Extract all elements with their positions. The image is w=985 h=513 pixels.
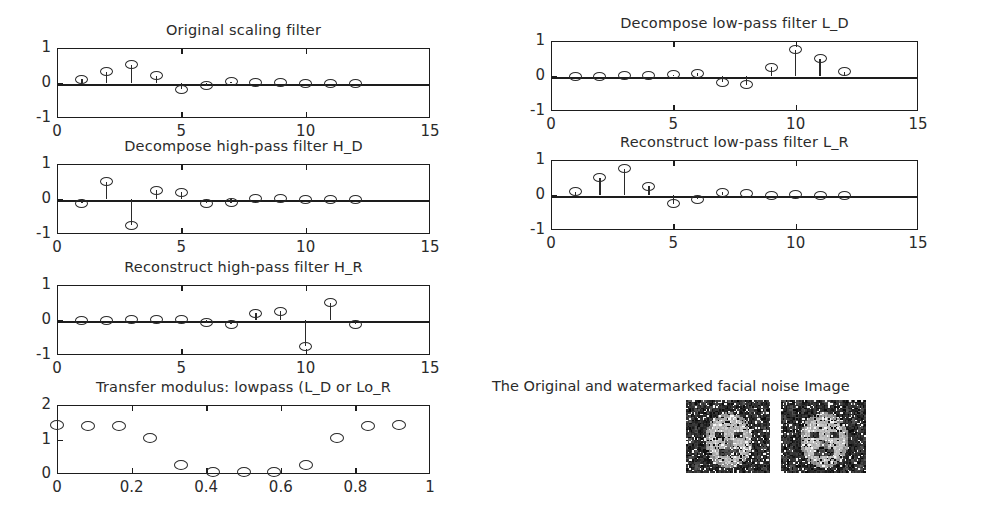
facial-image-caption: The Original and watermarked facial nois… [492,378,850,394]
original-scaling-filter-axes [57,48,430,118]
reconstruct-lowpass-filter-stem-marker [814,191,827,200]
decompose-highpass-filter-zero-line [58,200,429,202]
reconstruct-lowpass-filter-zero-line [552,196,917,198]
decompose-lowpass-filter-stem-marker [765,63,778,72]
transfer-modulus-lowpass-xtick-top [355,405,356,411]
decompose-lowpass-filter-zero-line [552,77,917,79]
reconstruct-lowpass-filter-xtick-label: 5 [643,234,703,252]
transfer-modulus-lowpass-xtick-top [206,405,207,411]
reconstruct-lowpass-filter-title: Reconstruct low-pass filter L_R [511,134,958,150]
transfer-modulus-lowpass-scatter-marker [267,467,281,477]
original-facial-noise-image [686,400,770,473]
reconstruct-lowpass-filter-xtick-label: 10 [766,234,826,252]
decompose-highpass-filter-xtick-label: 10 [276,238,336,256]
transfer-modulus-lowpass-scatter-marker [143,433,157,443]
transfer-modulus-lowpass-scatter-marker [206,467,220,477]
transfer-modulus-lowpass-xtick [355,468,356,474]
decompose-lowpass-filter-stem-marker [569,72,582,81]
decompose-lowpass-filter-stem-marker [814,54,827,63]
reconstruct-highpass-filter-stem-marker [225,320,238,329]
reconstruct-highpass-filter-stem-marker [100,316,113,325]
reconstruct-highpass-filter-xtick-label: 10 [276,359,336,377]
transfer-modulus-lowpass-scatter-marker [237,467,251,477]
reconstruct-lowpass-filter-axes [551,160,918,230]
reconstruct-highpass-filter-ytick-label: -1 [9,345,51,363]
reconstruct-highpass-filter-ytick [57,320,63,321]
decompose-highpass-filter-stem-marker [75,199,88,208]
decompose-lowpass-filter-xtick [673,105,674,111]
transfer-modulus-lowpass-ytick [57,440,63,441]
decompose-lowpass-filter-stem-marker [691,69,704,78]
decompose-highpass-filter-xtick [181,228,182,234]
decompose-highpass-filter-ytick-label: -1 [9,224,51,242]
original-scaling-filter-stem-marker [225,77,238,86]
decompose-highpass-filter-xtick-label: 5 [151,238,211,256]
original-scaling-filter-zero-line [58,84,429,86]
transfer-modulus-lowpass-axes [57,405,430,474]
transfer-modulus-lowpass-xtick-label: 1 [400,478,460,496]
original-scaling-filter-ytick-label: 0 [9,73,51,91]
decompose-highpass-filter-stem-marker [150,186,163,195]
reconstruct-lowpass-filter-stem-marker [569,187,582,196]
reconstruct-highpass-filter-title: Reconstruct high-pass filter H_R [17,259,470,275]
decompose-lowpass-filter-xtick [796,105,797,111]
decompose-lowpass-filter-xtick-label: 15 [888,115,948,133]
transfer-modulus-lowpass-scatter-marker [50,420,64,430]
decompose-highpass-filter-ytick-label: 1 [9,154,51,172]
reconstruct-lowpass-filter-stem-marker [691,195,704,204]
original-scaling-filter-xtick [306,112,307,118]
decompose-highpass-filter-stem-marker [175,188,188,197]
reconstruct-lowpass-filter-xtick-top [796,160,797,166]
decompose-highpass-filter-stem-marker [200,199,213,208]
original-scaling-filter-xtick-top [181,48,182,54]
transfer-modulus-lowpass-xtick-label: 0.4 [176,478,236,496]
transfer-modulus-lowpass-scatter-marker [299,460,313,470]
reconstruct-highpass-filter-stem-marker [349,320,362,329]
transfer-modulus-lowpass-xtick-top [281,405,282,411]
reconstruct-highpass-filter-stem-marker [150,315,163,324]
original-scaling-filter-ytick [57,83,63,84]
transfer-modulus-lowpass-ytick-label: 1 [9,430,51,448]
reconstruct-lowpass-filter-ytick-label: -1 [503,220,545,238]
decompose-highpass-filter-ytick-label: 0 [9,189,51,207]
reconstruct-lowpass-filter-stem-marker [838,191,851,200]
transfer-modulus-lowpass-scatter-marker [174,460,188,470]
reconstruct-lowpass-filter-stem-marker [642,182,655,191]
reconstruct-lowpass-filter-ytick [551,195,557,196]
original-scaling-filter-stem-marker [324,79,337,88]
watermarked-facial-noise-image [781,400,866,473]
transfer-modulus-lowpass-xtick-label: 0.8 [325,478,385,496]
decompose-highpass-filter-stem-marker [324,195,337,204]
decompose-lowpass-filter-ytick-label: -1 [503,101,545,119]
transfer-modulus-lowpass-xtick-top [132,405,133,411]
decompose-lowpass-filter-xtick-top [673,41,674,47]
reconstruct-highpass-filter-xtick-label: 5 [151,359,211,377]
decompose-highpass-filter-stem-marker [225,198,238,207]
original-scaling-filter-ytick-label: -1 [9,108,51,126]
reconstruct-highpass-filter-xtick-top [306,285,307,291]
reconstruct-lowpass-filter-ytick-label: 0 [503,185,545,203]
original-scaling-filter-xtick-top [306,48,307,54]
original-scaling-filter-stem-marker [299,79,312,88]
reconstruct-highpass-filter-stem-marker [299,342,312,351]
transfer-modulus-lowpass-xtick-label: 0.2 [102,478,162,496]
decompose-lowpass-filter-axes [551,41,918,111]
transfer-modulus-lowpass-ytick-label: 0 [9,464,51,482]
reconstruct-highpass-filter-xtick-top [181,285,182,291]
decompose-highpass-filter-xtick-label: 15 [400,238,460,256]
decompose-lowpass-filter-stem-marker [716,78,729,87]
decompose-lowpass-filter-stem-marker [642,71,655,80]
decompose-lowpass-filter-stem-marker [618,71,631,80]
reconstruct-lowpass-filter-xtick [673,224,674,230]
reconstruct-lowpass-filter-stem-marker [765,191,778,200]
decompose-lowpass-filter-title: Decompose low-pass filter L_D [511,15,958,31]
reconstruct-highpass-filter-stem-marker [324,298,337,307]
original-scaling-filter-xtick [181,112,182,118]
reconstruct-highpass-filter-xtick-label: 15 [400,359,460,377]
reconstruct-highpass-filter-stem-marker [75,316,88,325]
decompose-highpass-filter-xtick-top [306,164,307,170]
reconstruct-lowpass-filter-stem-marker [716,188,729,197]
transfer-modulus-lowpass-scatter-marker [81,421,95,431]
reconstruct-highpass-filter-zero-line [58,321,429,323]
transfer-modulus-lowpass-title: Transfer modulus: lowpass (L_D or Lo_R [17,379,470,395]
